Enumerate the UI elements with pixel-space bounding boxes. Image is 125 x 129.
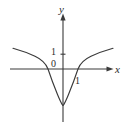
origin-label: 0 [51,59,56,69]
x-axis [10,66,114,71]
math-graph-figure: y x 1 0 1 [0,0,125,129]
y-axis [60,14,65,123]
graph-canvas [0,0,125,129]
x-axis-label: x [115,64,120,75]
curve-right-branch [63,48,113,105]
y-tick-label-one: 1 [51,47,56,57]
x-axis-arrowhead [107,66,114,71]
y-axis-label: y [59,4,64,15]
x-tick-label-one: 1 [75,76,80,86]
